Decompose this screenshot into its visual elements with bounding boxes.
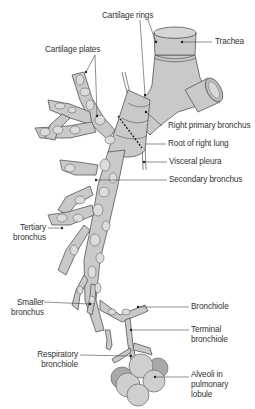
bronchial-tree-diagram bbox=[0, 0, 255, 409]
label-alveoli-line3: lobule bbox=[191, 390, 212, 400]
label-tertiary-bronchus-line1: Tertiary bbox=[12, 223, 46, 233]
alveoli-cluster bbox=[111, 354, 168, 406]
label-terminal-bronchiole-line2: bronchiole bbox=[191, 335, 228, 345]
label-alveoli-line2: pulmonary bbox=[191, 380, 228, 390]
label-bronchiole: Bronchiole bbox=[191, 302, 229, 312]
right-primary-bronchus bbox=[108, 90, 150, 157]
label-visceral-pleura: Visceral pleura bbox=[169, 157, 222, 167]
label-trachea: Trachea bbox=[215, 37, 244, 47]
label-root-of-right-lung: Root of right lung bbox=[168, 139, 229, 149]
label-alveoli-line1: Alveoli in bbox=[191, 370, 223, 380]
label-smaller-bronchus-line1: Smaller bbox=[10, 298, 44, 308]
label-smaller-bronchus-line2: bronchus bbox=[8, 308, 44, 318]
label-terminal-bronchiole-line1: Terminal bbox=[191, 325, 221, 335]
label-respiratory-bronchiole-line2: bronchiole bbox=[30, 360, 78, 370]
label-right-primary-bronchus: Right primary bronchus bbox=[168, 121, 250, 131]
label-cartilage-plates: Cartilage plates bbox=[45, 45, 100, 55]
label-cartilage-rings: Cartilage rings bbox=[102, 11, 153, 21]
label-respiratory-bronchiole-line1: Respiratory bbox=[30, 350, 78, 360]
label-tertiary-bronchus-line2: bronchus bbox=[10, 233, 46, 243]
label-secondary-bronchus: Secondary bronchus bbox=[169, 175, 242, 185]
